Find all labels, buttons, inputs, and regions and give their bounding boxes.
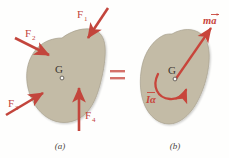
label-i-alpha-text: Iα	[145, 94, 156, 105]
center-of-mass-label-b: G	[168, 64, 176, 76]
equals-symbol-text: =	[117, 74, 118, 75]
caption-a: (a)	[55, 141, 66, 151]
label-i-alpha: Iα	[145, 93, 156, 106]
force-label-f4-subscript: 4	[92, 116, 96, 124]
center-of-mass-point-b	[173, 77, 177, 81]
figure-container: F 1 F 2 F 3 F 4 G (a) =	[0, 0, 229, 158]
label-ma-overbar-arrowhead	[217, 13, 219, 16]
rigid-body-equivalence-diagram: F 1 F 2 F 3 F 4 G (a) =	[0, 0, 229, 158]
force-label-f4-letter: F	[85, 109, 91, 121]
label-ma: ma	[203, 13, 219, 26]
center-of-mass-point-a	[60, 76, 64, 80]
force-label-f2-subscript: 2	[32, 34, 36, 42]
rigid-body-shape-a	[27, 29, 106, 123]
label-ma-text: ma	[203, 15, 216, 26]
center-of-mass-label-a: G	[55, 63, 63, 75]
force-label-f2-letter: F	[25, 27, 31, 39]
force-label-f3-subscript: 3	[15, 104, 19, 112]
force-label-f1-letter: F	[77, 8, 83, 20]
force-label-f3-letter: F	[8, 97, 14, 109]
panel-a: F 1 F 2 F 3 F 4 G (a)	[6, 8, 108, 152]
caption-b: (b)	[170, 141, 181, 151]
force-label-f1-subscript: 1	[84, 15, 88, 23]
panel-b: ma Iα G (b)	[140, 13, 219, 151]
equals-sign: =	[110, 70, 125, 79]
